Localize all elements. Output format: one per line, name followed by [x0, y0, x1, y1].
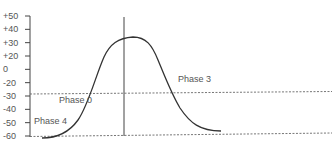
y-tick-label: -60 — [3, 131, 16, 141]
y-ticks: +50+40+30+200-20-30-40-50-60 — [3, 11, 30, 141]
y-tick-label: -50 — [3, 118, 16, 128]
y-tick-label: +30 — [3, 38, 18, 48]
threshold-line-minus30 — [30, 92, 332, 95]
baseline-line-minus60 — [30, 133, 332, 137]
action-potential-curve — [42, 37, 221, 138]
action-potential-chart: +50+40+30+200-20-30-40-50-60 Phase 0 Pha… — [0, 0, 332, 149]
y-tick-label: 0 — [3, 64, 8, 74]
y-tick-label: +50 — [3, 11, 18, 21]
phase-4-label: Phase 4 — [34, 116, 67, 126]
phase-0-label: Phase 0 — [59, 95, 92, 105]
y-tick-label: +40 — [3, 24, 18, 34]
phase-3-label: Phase 3 — [178, 74, 211, 84]
y-tick-label: +20 — [3, 51, 18, 61]
y-tick-label: -30 — [3, 91, 16, 101]
y-tick-label: -40 — [3, 104, 16, 114]
y-tick-label: -20 — [3, 78, 16, 88]
